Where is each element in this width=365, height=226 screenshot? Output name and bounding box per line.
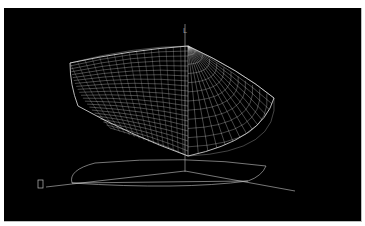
hull-station bbox=[77, 61, 115, 129]
vertical-axis-label: L bbox=[183, 27, 187, 35]
hull-bow-line bbox=[188, 46, 258, 125]
hull-waterline bbox=[85, 101, 188, 111]
hull-station bbox=[85, 60, 120, 132]
hull-bow-ring bbox=[188, 98, 274, 156]
hull-bow-ring bbox=[188, 85, 253, 129]
hull-waterline bbox=[81, 95, 188, 101]
hull-wireframe-scene: L bbox=[0, 0, 365, 226]
origin-marker-icon bbox=[38, 180, 43, 188]
ground-projection bbox=[46, 160, 295, 191]
hull-bow-line bbox=[188, 46, 262, 120]
hull-outline bbox=[70, 46, 274, 156]
hull-station bbox=[159, 48, 169, 149]
hull-waterline bbox=[100, 119, 188, 141]
hull-waterline bbox=[75, 79, 188, 83]
hull-wireframe bbox=[70, 46, 274, 156]
hull-waterline bbox=[70, 46, 188, 63]
hull-waterline bbox=[87, 104, 188, 116]
hull-bow-line bbox=[188, 46, 208, 151]
hull-waterline bbox=[71, 56, 188, 69]
hull-bow-line bbox=[188, 46, 225, 145]
hull-waterline bbox=[76, 83, 188, 86]
hull-station bbox=[166, 48, 174, 151]
ground-axes bbox=[46, 171, 295, 191]
hull-waterline bbox=[78, 87, 188, 91]
